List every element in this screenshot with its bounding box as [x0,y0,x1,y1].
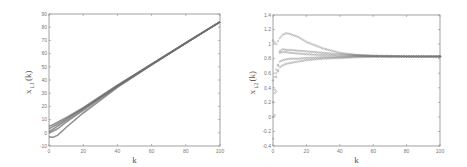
data-point-marker [324,48,326,50]
data-point-marker [331,58,333,60]
data-point-marker [297,53,299,55]
data-point-marker [331,53,333,55]
data-point-marker [301,50,303,52]
data-point-marker [307,54,309,56]
data-point-marker [331,55,333,57]
data-point-marker [304,40,306,42]
data-point-marker [306,54,308,56]
data-point-marker [317,52,319,54]
data-point-marker [292,34,294,36]
data-point-marker [314,57,316,59]
data-point-marker [292,62,294,64]
data-point-marker [316,58,318,60]
left-plot-area: 020406080100-100102030405060708090kxi,1(… [0,0,233,167]
data-point-marker [322,54,324,56]
data-point-marker [301,38,303,40]
data-point-marker [407,56,409,58]
data-point-marker [326,54,328,56]
data-point-marker [279,67,281,69]
y-tick-label: 0.2 [264,99,271,105]
data-point-marker [277,40,279,42]
data-point-marker [301,53,303,55]
y-tick-label: 0 [44,130,47,136]
data-point-marker [312,57,314,59]
data-point-marker [282,64,284,66]
data-point-marker [281,49,283,51]
data-point-marker [299,60,301,62]
y-tick-label: 30 [41,90,47,96]
data-point-marker [307,42,309,44]
data-point-marker [319,54,321,56]
y-tick-label: -10 [40,143,47,149]
x-tick-label: 80 [404,148,410,154]
data-point-marker [416,56,418,58]
x-tick-label: 100 [216,148,225,154]
data-point-marker [312,51,314,53]
x-tick-label: 60 [149,148,155,154]
x-tick-label: 0 [272,148,275,154]
data-point-marker [332,55,334,57]
data-point-marker [319,46,321,48]
y-axis-label-subscript: i,2 [253,83,259,89]
y-tick-label: -0.4 [262,143,271,149]
y-axis-label-main: x [247,90,257,95]
data-point-marker [311,43,313,45]
data-point-marker [334,55,336,57]
data-point-marker [436,56,438,58]
x-tick-label: 0 [48,148,51,154]
y-tick-label: 10 [41,116,47,122]
data-point-marker [276,76,278,78]
data-point-marker [294,50,296,52]
y-axis-label-main: x [23,89,33,94]
data-point-marker [312,54,314,56]
axes-frame [49,14,220,146]
data-point-marker [336,51,338,53]
data-point-marker [311,54,313,56]
x-tick-label: 20 [304,148,310,154]
data-point-marker [326,52,328,54]
data-point-marker [296,53,298,55]
data-point-marker [297,36,299,38]
data-point-marker [312,59,314,61]
data-point-marker [316,54,318,56]
data-point-marker [286,59,288,61]
data-point-marker [282,34,284,36]
x-axis-label: k [354,155,359,165]
data-point-marker [327,52,329,54]
data-point-marker [302,53,304,55]
x-axis-label: k [132,155,137,165]
data-point-marker [296,50,298,52]
data-point-marker [309,57,311,59]
data-point-marker [314,59,316,61]
data-point-marker [316,45,318,47]
data-point-marker [327,49,329,51]
data-point-marker [317,57,319,59]
data-point-marker [307,57,309,59]
y-tick-label: 50 [41,64,47,70]
data-point-marker [274,114,276,116]
data-point-marker [276,69,278,71]
data-point-marker [276,43,278,45]
y-tick-label: 80 [41,24,47,30]
data-point-marker [326,49,328,51]
data-point-marker [306,41,308,43]
data-point-marker [322,48,324,50]
data-point-marker [292,49,294,51]
data-point-marker [322,52,324,54]
data-point-marker [294,61,296,63]
x-tick-label: 80 [183,148,189,154]
data-point-marker [411,56,413,58]
y-axis-label: xi,1(k) [23,71,35,95]
y-tick-label: 70 [41,37,47,43]
data-point-marker [289,49,291,51]
data-point-marker [294,35,296,37]
data-point-marker [276,91,278,93]
data-point-marker [419,56,421,58]
data-point-marker [282,59,284,61]
data-point-marker [304,57,306,59]
y-tick-label: 1.2 [264,26,271,32]
y-tick-label: 1.4 [264,12,271,18]
data-point-marker [302,50,304,52]
data-point-marker [327,54,329,56]
data-point-marker [304,60,306,62]
